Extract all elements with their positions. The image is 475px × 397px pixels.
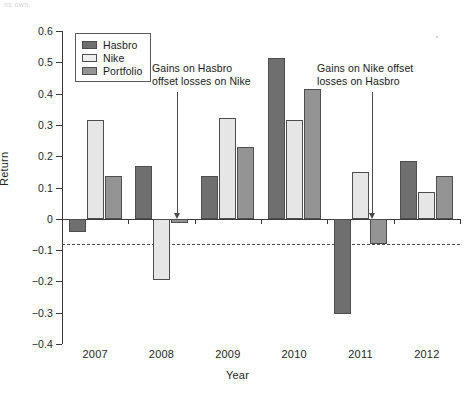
bar-hasbro-2011 <box>334 219 351 314</box>
bar-nike-2011 <box>352 172 369 218</box>
bar-nike-2008 <box>153 219 170 280</box>
x-axis-tick <box>128 219 129 224</box>
legend-label-nike: Nike <box>103 52 124 64</box>
y-axis-label: Return <box>0 152 10 186</box>
annotation-gains-nike-line2: losses on Hasbro <box>317 75 413 88</box>
y-axis-tick <box>56 344 62 345</box>
legend-label-hasbro: Hasbro <box>103 39 137 51</box>
x-axis-tick <box>327 219 328 224</box>
bar-nike-2007 <box>87 120 104 219</box>
legend-swatch-portfolio <box>82 67 97 75</box>
bar-portfolio-2010 <box>304 89 321 219</box>
x-axis-tick-label: 2010 <box>282 348 307 360</box>
bar-portfolio-2012 <box>436 176 453 219</box>
bar-hasbro-2009 <box>201 176 218 219</box>
y-axis-tick-label: 0.6 <box>38 25 53 37</box>
annotation-arrowhead-icon <box>369 213 375 219</box>
y-axis-tick-label: −0.4 <box>32 338 53 350</box>
bar-hasbro-2012 <box>400 161 417 219</box>
x-axis-tick <box>261 219 262 224</box>
legend-item-portfolio: Portfolio <box>82 64 142 77</box>
bar-portfolio-2008 <box>171 219 188 223</box>
y-axis-tick-label: −0.1 <box>32 244 53 256</box>
y-axis-tick-label: 0.3 <box>38 119 53 131</box>
x-axis-tick-label: 2012 <box>414 348 439 360</box>
y-axis-tick-label: −0.2 <box>32 275 53 287</box>
bar-hasbro-2010 <box>268 58 285 219</box>
y-axis-tick-label: 0 <box>47 213 53 225</box>
legend-swatch-hasbro <box>82 41 97 49</box>
y-axis-tick-label: 0.2 <box>38 150 53 162</box>
annotation-leader-line <box>177 92 178 214</box>
bar-portfolio-2007 <box>105 176 122 219</box>
bar-nike-2009 <box>219 118 236 219</box>
bar-hasbro-2008 <box>135 166 152 219</box>
y-axis-tick-label: 0.5 <box>38 56 53 68</box>
x-axis-tick-label: 2008 <box>149 348 174 360</box>
chart-legend: Hasbro Nike Portfolio <box>75 33 151 82</box>
bar-hasbro-2007 <box>69 219 86 232</box>
y-axis-tick-label: −0.3 <box>32 307 53 319</box>
annotation-leader-line <box>372 92 373 214</box>
annotation-gains-hasbro: Gains on Hasbro offset losses on Nike <box>152 62 251 87</box>
x-axis-tick <box>62 219 63 224</box>
annotation-arrowhead-icon <box>174 213 180 219</box>
y-axis-tick-label: 0.4 <box>38 88 53 100</box>
y-axis-line <box>62 31 63 344</box>
annotation-gains-hasbro-line1: Gains on Hasbro <box>152 62 251 75</box>
annotation-gains-hasbro-line2: offset losses on Nike <box>152 75 251 88</box>
legend-item-hasbro: Hasbro <box>82 38 142 51</box>
bar-chart-figure: Return 0.60.50.40.30.20.10−0.1−0.2−0.3−0… <box>0 0 475 397</box>
x-axis-tick <box>394 219 395 224</box>
x-axis-tick-label: 2009 <box>215 348 240 360</box>
annotation-gains-nike-line1: Gains on Nike offset <box>317 62 413 75</box>
legend-label-portfolio: Portfolio <box>103 65 142 77</box>
legend-swatch-nike <box>82 54 97 62</box>
x-axis-tick <box>460 219 461 224</box>
annotation-gains-nike: Gains on Nike offset losses on Hasbro <box>317 62 413 87</box>
x-axis-label: Year <box>0 369 475 381</box>
y-axis-tick-label: 0.1 <box>38 182 53 194</box>
bar-nike-2010 <box>286 120 303 219</box>
bar-portfolio-2011 <box>370 219 387 244</box>
x-axis-tick <box>195 219 196 224</box>
bar-portfolio-2009 <box>237 147 254 219</box>
legend-item-nike: Nike <box>82 51 142 64</box>
x-axis-tick-label: 2007 <box>83 348 108 360</box>
reference-dashed-line <box>62 244 460 245</box>
bar-nike-2012 <box>418 192 435 219</box>
x-axis-tick-label: 2011 <box>348 348 372 360</box>
